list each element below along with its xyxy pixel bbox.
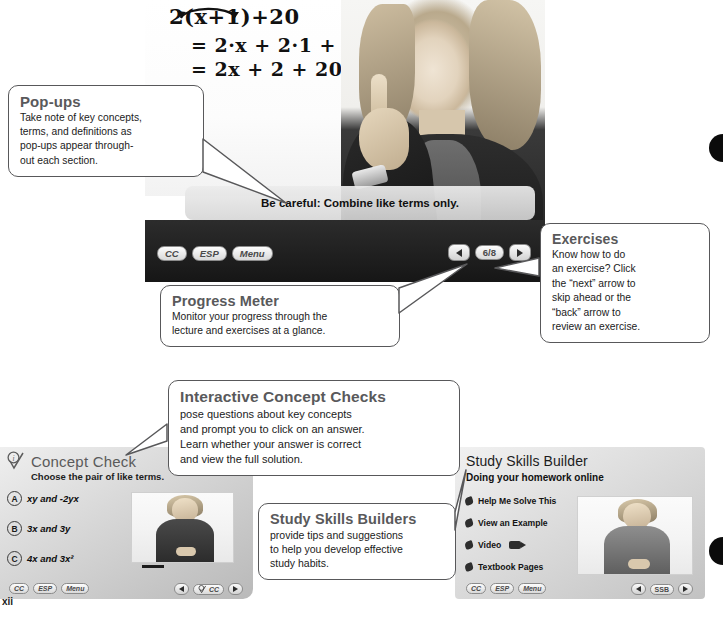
callout-line: to help you develop effective	[270, 542, 445, 556]
next-arrow-button[interactable]	[228, 583, 243, 595]
option-text: 3x and 3y	[27, 523, 70, 534]
callout-line: lecture and exercises at a glance.	[172, 324, 389, 338]
pointer-bullet-icon	[464, 518, 474, 528]
cc-button[interactable]: CC	[9, 583, 29, 594]
ssb-title: Study Skills Builder	[466, 453, 588, 469]
ssb-control-bar: CC ESP Menu SSB	[455, 579, 705, 599]
pointer-bullet-icon	[464, 540, 474, 550]
info-check-icon: i	[6, 451, 26, 471]
triangle-right-icon	[233, 586, 238, 592]
callout-exercises: Exercises Know how to do an exercise? Cl…	[540, 223, 710, 343]
back-arrow-button[interactable]	[448, 244, 470, 261]
pointer-bullet-icon	[464, 562, 474, 572]
callout-line: an exercise? Click	[552, 262, 699, 276]
callout-title: Exercises	[552, 231, 699, 247]
callout-title: Progress Meter	[172, 293, 389, 309]
distribute-arrow-icon	[177, 4, 247, 22]
next-arrow-button[interactable]	[509, 244, 531, 261]
callout-line: Monitor your progress through the	[172, 310, 389, 324]
callout-line: “back” arrow to	[552, 306, 699, 320]
study-skills-builder-panel[interactable]: Study Skills Builder Doing your homework…	[455, 447, 705, 599]
ssb-video-thumbnail[interactable]	[577, 496, 693, 575]
concept-check-option-b[interactable]: B 3x and 3y	[7, 521, 70, 536]
ssb-link-list: Help Me Solve This View an Example Video…	[465, 496, 556, 584]
cc-button[interactable]: CC	[157, 246, 187, 261]
back-arrow-button[interactable]	[631, 583, 646, 595]
option-letter-bubble: B	[7, 521, 22, 536]
lecture-video-panel[interactable]: 2(x+1)+20 = 2·x + 2·1 + 2 = 2x + 2 + 20 …	[145, 0, 545, 282]
concept-check-video-thumbnail[interactable]	[131, 492, 234, 563]
callout-title: Pop-ups	[20, 93, 193, 110]
callout-line: Learn whether your answer is correct	[180, 437, 449, 452]
video-control-bar: CC ESP Menu 6/8	[145, 220, 545, 282]
cc-button[interactable]: CC	[466, 583, 486, 594]
ssb-item-help-me-solve-this[interactable]: Help Me Solve This	[465, 496, 556, 506]
menu-button[interactable]: Menu	[518, 583, 546, 594]
concept-check-nav-button[interactable]: CC	[193, 584, 224, 595]
option-letter-bubble: C	[7, 551, 22, 566]
ssb-item-textbook-pages[interactable]: Textbook Pages	[465, 562, 556, 572]
back-arrow-button[interactable]	[174, 583, 189, 595]
photo-detail	[176, 547, 196, 556]
callout-line: Take note of key concepts,	[20, 111, 193, 125]
concept-check-control-bar: CC ESP Menu CC	[0, 579, 253, 599]
callout-line: terms, and definitions as	[20, 125, 193, 139]
callout-body: Know how to do an exercise? Click the “n…	[552, 248, 699, 334]
esp-button[interactable]: ESP	[33, 583, 57, 594]
callout-line: study habits.	[270, 556, 445, 570]
ssb-item-label: Video	[478, 540, 501, 550]
page-root: 2(x+1)+20 = 2·x + 2·1 + 2 = 2x + 2 + 20 …	[0, 0, 723, 617]
esp-button[interactable]: ESP	[490, 583, 514, 594]
photo-detail	[628, 559, 650, 569]
ssb-subtitle: Doing your homework online	[466, 472, 604, 483]
option-text: 4x and 3x²	[27, 553, 73, 564]
concept-check-prompt: Choose the pair of like terms.	[31, 471, 164, 482]
callout-line: pop-ups appear through-	[20, 139, 193, 153]
nav-label: CC	[209, 586, 219, 593]
concept-check-option-a[interactable]: A xy and -2yx	[7, 491, 79, 506]
progress-meter: 6/8	[475, 245, 504, 260]
concept-check-header: i Concept Check	[6, 451, 136, 471]
callout-line: provide tips and suggestions	[270, 528, 445, 542]
esp-button[interactable]: ESP	[192, 246, 227, 261]
triangle-right-icon	[517, 249, 523, 257]
concept-check-title: Concept Check	[31, 453, 136, 470]
callout-title: Study Skills Builders	[270, 511, 445, 527]
callout-line: the “next” arrow to	[552, 277, 699, 291]
menu-button[interactable]: Menu	[232, 246, 273, 261]
ssb-item-label: View an Example	[478, 518, 548, 528]
video-camera-icon	[509, 541, 521, 549]
callout-line: Know how to do	[552, 248, 699, 262]
callout-interactive-concept-checks: Interactive Concept Checks pose question…	[168, 380, 460, 476]
option-text: xy and -2yx	[27, 493, 79, 504]
triangle-right-icon	[683, 586, 688, 592]
callout-title: Interactive Concept Checks	[180, 388, 449, 406]
callout-progress-meter: Progress Meter Monitor your progress thr…	[160, 285, 400, 347]
callout-popups: Pop-ups Take note of key concepts, terms…	[8, 85, 204, 177]
photo-detail	[156, 519, 214, 563]
triangle-left-icon	[179, 586, 184, 592]
ssb-item-label: Help Me Solve This	[478, 496, 556, 506]
option-letter-bubble: A	[7, 491, 22, 506]
handwritten-equation: 2(x+1)+20 = 2·x + 2·1 + 2 = 2x + 2 + 20	[153, 4, 373, 80]
photo-detail	[142, 565, 164, 568]
page-edge-dot	[709, 537, 723, 565]
ssb-item-label: Textbook Pages	[478, 562, 543, 572]
concept-check-option-c[interactable]: C 4x and 3x²	[7, 551, 73, 566]
triangle-left-icon	[456, 249, 462, 257]
ssb-item-view-an-example[interactable]: View an Example	[465, 518, 556, 528]
callout-line: pose questions about key concepts	[180, 407, 449, 422]
callout-line: and prompt you to click on an answer.	[180, 422, 449, 437]
photo-detail	[469, 0, 541, 150]
page-number: xii	[2, 596, 13, 607]
next-arrow-button[interactable]	[678, 583, 693, 595]
callout-line: out each section.	[20, 154, 193, 168]
pointer-bullet-icon	[464, 496, 474, 506]
ssb-nav-button[interactable]: SSB	[650, 584, 674, 595]
callout-body: pose questions about key concepts and pr…	[180, 407, 449, 467]
lecture-popup-banner: Be careful: Combine like terms only.	[185, 186, 535, 220]
callout-line: skip ahead or the	[552, 291, 699, 305]
menu-button[interactable]: Menu	[61, 583, 89, 594]
ssb-item-video[interactable]: Video	[465, 540, 556, 550]
svg-text:i: i	[12, 454, 14, 463]
